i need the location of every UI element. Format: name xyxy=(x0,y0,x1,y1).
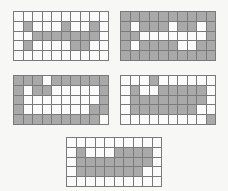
filled-cell xyxy=(169,12,179,22)
filled-cell xyxy=(81,41,91,51)
filled-cell xyxy=(43,86,53,96)
empty-cell xyxy=(52,22,62,32)
filled-cell xyxy=(43,115,53,125)
filled-cell xyxy=(178,105,188,115)
filled-cell xyxy=(143,158,153,168)
filled-cell xyxy=(81,32,91,42)
filled-cell xyxy=(150,12,160,22)
empty-cell xyxy=(197,22,207,32)
filled-cell xyxy=(169,51,179,61)
filled-cell xyxy=(14,86,24,96)
empty-cell xyxy=(169,76,179,86)
empty-cell xyxy=(43,76,53,86)
filled-cell xyxy=(197,41,207,51)
empty-cell xyxy=(153,138,163,148)
filled-cell xyxy=(124,148,134,158)
filled-cell xyxy=(207,41,217,51)
filled-cell xyxy=(115,148,125,158)
filled-cell xyxy=(90,76,100,86)
empty-cell xyxy=(153,148,163,158)
filled-cell xyxy=(90,105,100,115)
filled-cell xyxy=(207,12,217,22)
filled-cell xyxy=(134,148,144,158)
empty-cell xyxy=(86,138,96,148)
filled-cell xyxy=(159,51,169,61)
empty-cell xyxy=(33,41,43,51)
filled-cell xyxy=(169,105,179,115)
filled-cell xyxy=(24,41,34,51)
empty-cell xyxy=(43,22,53,32)
filled-cell xyxy=(131,32,141,42)
filled-cell xyxy=(188,22,198,32)
empty-cell xyxy=(153,177,163,187)
filled-cell xyxy=(197,86,207,96)
empty-cell xyxy=(52,41,62,51)
empty-cell xyxy=(33,51,43,61)
empty-cell xyxy=(178,41,188,51)
filled-cell xyxy=(207,115,217,125)
filled-cell xyxy=(90,22,100,32)
filled-cell xyxy=(33,32,43,42)
empty-cell xyxy=(71,105,81,115)
empty-cell xyxy=(143,177,153,187)
filled-cell xyxy=(188,12,198,22)
filled-cell xyxy=(207,32,217,42)
filled-cell xyxy=(197,12,207,22)
empty-cell xyxy=(100,32,110,42)
empty-cell xyxy=(67,148,77,158)
filled-cell xyxy=(33,115,43,125)
empty-cell xyxy=(105,138,115,148)
empty-cell xyxy=(169,22,179,32)
filled-cell xyxy=(159,22,169,32)
empty-cell xyxy=(33,22,43,32)
empty-cell xyxy=(33,12,43,22)
empty-cell xyxy=(14,32,24,42)
empty-cell xyxy=(81,86,91,96)
grid-top-right xyxy=(120,11,216,61)
empty-cell xyxy=(134,177,144,187)
filled-cell xyxy=(62,22,72,32)
empty-cell xyxy=(52,96,62,106)
empty-cell xyxy=(43,12,53,22)
empty-cell xyxy=(100,51,110,61)
empty-cell xyxy=(178,76,188,86)
filled-cell xyxy=(134,158,144,168)
filled-cell xyxy=(77,148,87,158)
empty-cell xyxy=(121,86,131,96)
empty-cell xyxy=(131,41,141,51)
empty-cell xyxy=(67,158,77,168)
filled-cell xyxy=(150,51,160,61)
empty-cell xyxy=(14,22,24,32)
empty-cell xyxy=(62,12,72,22)
empty-cell xyxy=(81,105,91,115)
empty-cell xyxy=(67,167,77,177)
empty-cell xyxy=(140,115,150,125)
filled-cell xyxy=(121,22,131,32)
empty-cell xyxy=(43,51,53,61)
empty-cell xyxy=(52,12,62,22)
empty-cell xyxy=(33,96,43,106)
empty-cell xyxy=(197,76,207,86)
empty-cell xyxy=(62,96,72,106)
filled-cell xyxy=(131,12,141,22)
empty-cell xyxy=(24,105,34,115)
filled-cell xyxy=(169,41,179,51)
empty-cell xyxy=(105,148,115,158)
empty-cell xyxy=(90,86,100,96)
empty-cell xyxy=(159,32,169,42)
filled-cell xyxy=(121,51,131,61)
empty-cell xyxy=(159,76,169,86)
empty-cell xyxy=(81,51,91,61)
filled-cell xyxy=(197,96,207,106)
filled-cell xyxy=(33,86,43,96)
empty-cell xyxy=(71,51,81,61)
filled-cell xyxy=(150,76,160,86)
empty-cell xyxy=(24,12,34,22)
filled-cell xyxy=(178,96,188,106)
empty-cell xyxy=(178,32,188,42)
empty-cell xyxy=(71,22,81,32)
empty-cell xyxy=(71,12,81,22)
filled-cell xyxy=(81,76,91,86)
empty-cell xyxy=(24,32,34,42)
filled-cell xyxy=(197,51,207,61)
